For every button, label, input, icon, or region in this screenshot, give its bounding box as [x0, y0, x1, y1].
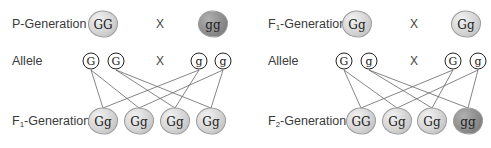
offspring: Gg: [88, 108, 118, 135]
allele: g: [191, 53, 208, 70]
offspring: Gg: [160, 108, 190, 135]
cross-symbol: X: [410, 17, 418, 31]
allele: G: [83, 53, 100, 70]
label-main: F: [268, 114, 276, 128]
parent-heterozygous: Gg: [342, 11, 372, 38]
label-rest: -Generation: [24, 114, 90, 128]
label-main: F: [12, 114, 20, 128]
offspring: gg: [453, 108, 483, 135]
cross-symbol: X: [156, 54, 164, 68]
parent-gg-recessive: gg: [198, 11, 228, 38]
label-main: F: [268, 17, 276, 31]
offspring: Gg: [382, 108, 412, 135]
offspring: Gg: [124, 108, 154, 135]
label-rest: -Generation: [280, 17, 346, 31]
label-rest: -Generation: [280, 114, 346, 128]
f2-generation-label: F2-Generation: [268, 114, 346, 132]
cross-symbol: X: [156, 17, 164, 31]
cross-symbol: X: [410, 54, 418, 68]
allele: g: [215, 53, 232, 70]
offspring: Gg: [417, 108, 447, 135]
f1-generation-label: F1-Generation: [12, 114, 90, 132]
allele-label: Allele: [12, 54, 43, 68]
allele: g: [470, 53, 487, 70]
parent-heterozygous: Gg: [451, 11, 481, 38]
offspring: Gg: [196, 108, 226, 135]
parent-gg-dominant: GG: [88, 11, 118, 38]
offspring: GG: [346, 108, 376, 135]
allele-label: Allele: [268, 54, 299, 68]
p-generation-label: P-Generation: [12, 17, 86, 31]
f1-generation-label: F1-Generation: [268, 17, 346, 35]
allele: G: [336, 53, 353, 70]
allele: G: [108, 53, 125, 70]
allele: g: [361, 53, 378, 70]
allele: G: [445, 53, 462, 70]
